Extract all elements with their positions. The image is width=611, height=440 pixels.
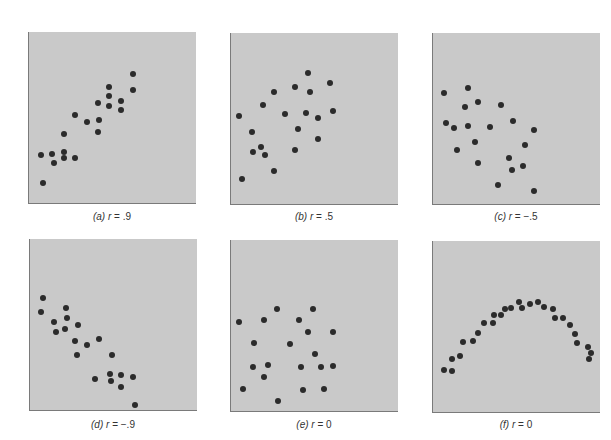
caption-eq: = xyxy=(109,419,120,430)
data-point xyxy=(472,139,478,145)
data-point xyxy=(487,124,493,130)
scatter-panel-e xyxy=(230,240,398,412)
data-point xyxy=(130,87,136,93)
caption-value: −.9 xyxy=(121,419,135,430)
data-point xyxy=(475,99,481,105)
data-point xyxy=(62,326,68,332)
caption-d: (d) r = −.9 xyxy=(29,419,197,430)
data-point xyxy=(449,368,455,374)
data-point xyxy=(118,98,124,104)
data-point xyxy=(495,182,501,188)
data-point xyxy=(271,168,277,174)
data-point xyxy=(441,90,447,96)
data-point xyxy=(531,188,537,194)
data-point xyxy=(457,353,463,359)
data-point xyxy=(61,155,67,161)
data-point xyxy=(321,386,327,392)
caption-letter: (d) xyxy=(91,419,103,430)
caption-eq: = xyxy=(313,211,324,222)
data-point xyxy=(550,306,556,312)
data-point xyxy=(449,356,455,362)
data-point xyxy=(250,149,256,155)
data-point xyxy=(282,111,288,117)
data-point xyxy=(470,338,476,344)
data-point xyxy=(132,402,138,408)
data-point xyxy=(506,155,512,161)
data-point xyxy=(305,329,311,335)
data-point xyxy=(92,376,98,382)
data-point xyxy=(315,136,321,142)
data-point xyxy=(40,295,46,301)
data-point xyxy=(527,301,533,307)
data-point xyxy=(574,340,580,346)
data-point xyxy=(95,100,101,106)
data-point xyxy=(315,115,321,121)
data-point xyxy=(481,320,487,326)
caption-letter: (c) xyxy=(494,211,506,222)
data-point xyxy=(287,341,293,347)
data-point xyxy=(61,131,67,137)
data-point xyxy=(271,89,277,95)
data-point xyxy=(462,104,468,110)
data-point xyxy=(475,330,481,336)
data-point xyxy=(51,319,57,325)
data-point xyxy=(53,329,59,335)
data-point xyxy=(265,362,271,368)
data-point xyxy=(305,70,311,76)
data-point xyxy=(96,336,102,342)
data-point xyxy=(508,305,514,311)
caption-value: .9 xyxy=(123,211,131,222)
data-point xyxy=(109,352,115,358)
scatter-panel-d xyxy=(29,239,197,411)
data-point xyxy=(451,125,457,131)
data-point xyxy=(118,107,124,113)
data-point xyxy=(572,331,578,337)
data-point xyxy=(510,118,516,124)
caption-value: 0 xyxy=(527,419,533,430)
data-point xyxy=(292,84,298,90)
data-point xyxy=(75,322,81,328)
data-point xyxy=(38,152,44,158)
data-point xyxy=(300,387,306,393)
data-point xyxy=(240,386,246,392)
data-point xyxy=(441,367,447,373)
data-point xyxy=(541,304,547,310)
data-point xyxy=(498,312,504,318)
data-point xyxy=(460,339,466,345)
caption-f: (f) r = 0 xyxy=(432,419,600,430)
data-point xyxy=(249,129,255,135)
data-point xyxy=(107,371,113,377)
data-point xyxy=(72,155,78,161)
caption-eq: = xyxy=(315,419,326,430)
data-point xyxy=(330,329,336,335)
data-point xyxy=(51,160,57,166)
data-point xyxy=(275,398,281,404)
data-point xyxy=(318,364,324,370)
data-point xyxy=(261,317,267,323)
data-point xyxy=(130,71,136,77)
data-point xyxy=(262,152,268,158)
data-point xyxy=(303,110,309,116)
data-point xyxy=(531,127,537,133)
data-point xyxy=(498,102,504,108)
data-point xyxy=(251,340,257,346)
data-point xyxy=(236,319,242,325)
data-point xyxy=(118,384,124,390)
data-point xyxy=(64,315,70,321)
data-point xyxy=(509,167,515,173)
data-point xyxy=(96,117,102,123)
caption-b: (b) r = .5 xyxy=(230,211,398,222)
data-point xyxy=(443,120,449,126)
data-point xyxy=(567,322,573,328)
data-point xyxy=(38,309,44,315)
data-point xyxy=(118,372,124,378)
scatter-panel-b xyxy=(230,33,398,205)
data-point xyxy=(454,147,460,153)
data-point xyxy=(491,312,497,318)
data-point xyxy=(465,85,471,91)
data-point xyxy=(475,160,481,166)
scatter-panel-a xyxy=(28,32,196,204)
data-point xyxy=(327,80,333,86)
scatter-panel-f xyxy=(432,241,600,413)
data-point xyxy=(108,378,114,384)
